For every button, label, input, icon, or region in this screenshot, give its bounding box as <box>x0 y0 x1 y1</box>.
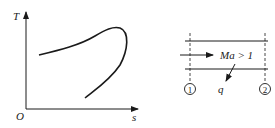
duct-diagram: Ma > 1 q 1 2 <box>180 33 271 95</box>
heat-label: q <box>218 83 224 95</box>
origin-label: O <box>16 110 24 122</box>
mach-label: Ma > 1 <box>219 49 253 61</box>
process-curve <box>39 27 127 98</box>
section-1-label: 1 <box>188 85 193 95</box>
s-axis-label: s <box>132 111 136 123</box>
heat-arrow <box>226 64 235 81</box>
figure: T O s Ma > 1 q 1 2 <box>0 0 275 128</box>
ts-diagram: T O s <box>13 10 138 123</box>
section-2-label: 2 <box>263 85 268 95</box>
t-axis-label: T <box>13 10 20 22</box>
